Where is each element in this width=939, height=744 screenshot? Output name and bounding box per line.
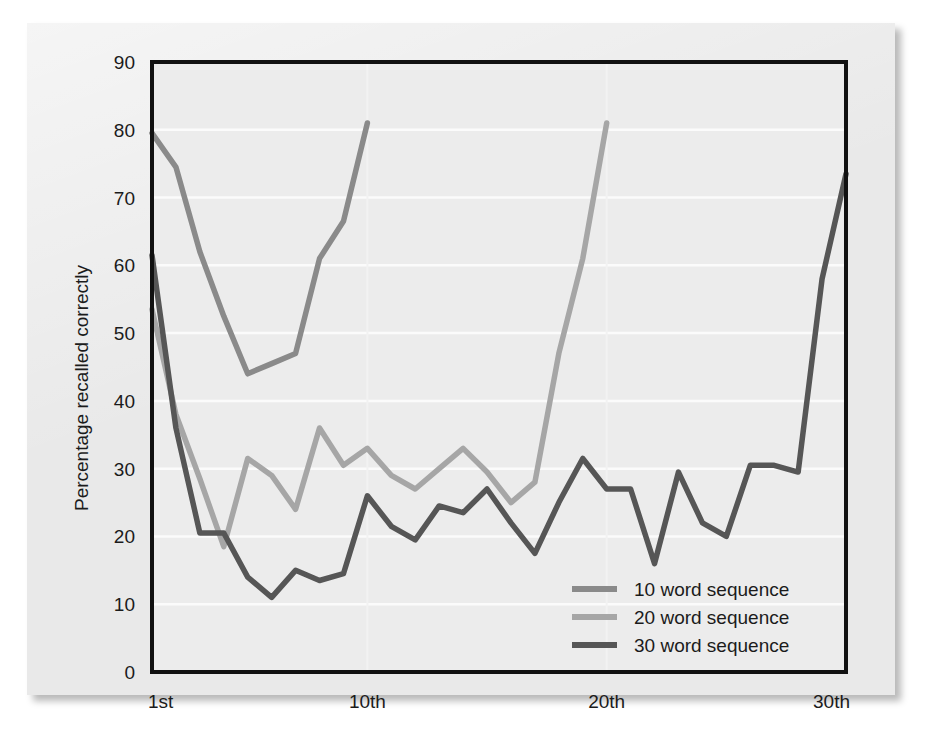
x-tick-label: 20th bbox=[588, 691, 625, 712]
chart-page: 0102030405060708090 1st10th20th30th Perc… bbox=[0, 0, 939, 744]
x-tick-label: 1st bbox=[148, 691, 174, 712]
y-tick-label: 30 bbox=[114, 459, 135, 480]
serial-position-chart: 0102030405060708090 1st10th20th30th Perc… bbox=[0, 0, 939, 744]
y-tick-labels: 0102030405060708090 bbox=[114, 52, 135, 683]
y-tick-label: 40 bbox=[114, 391, 135, 412]
y-tick-label: 20 bbox=[114, 526, 135, 547]
y-tick-label: 50 bbox=[114, 323, 135, 344]
legend-label: 20 word sequence bbox=[634, 607, 789, 628]
x-tick-labels: 1st10th20th30th bbox=[148, 691, 850, 712]
y-tick-label: 90 bbox=[114, 52, 135, 73]
y-tick-label: 80 bbox=[114, 120, 135, 141]
y-tick-label: 10 bbox=[114, 594, 135, 615]
y-tick-label: 70 bbox=[114, 188, 135, 209]
chart-legend: 10 word sequence20 word sequence30 word … bbox=[572, 579, 789, 656]
legend-label: 10 word sequence bbox=[634, 579, 789, 600]
x-tick-label: 30th bbox=[813, 691, 850, 712]
y-axis-title: Percentage recalled correctly bbox=[71, 264, 92, 511]
legend-label: 30 word sequence bbox=[634, 635, 789, 656]
x-tick-label: 10th bbox=[349, 691, 386, 712]
y-tick-label: 0 bbox=[124, 662, 135, 683]
y-tick-label: 60 bbox=[114, 255, 135, 276]
